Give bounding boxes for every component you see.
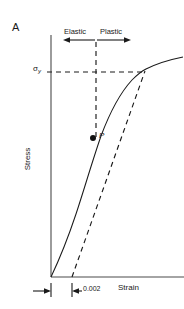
offset-dimension-arrow-head-icon: [72, 288, 79, 294]
yield-stress-label: σy: [33, 65, 41, 74]
point-p-marker: [90, 135, 96, 141]
x-axis-label: Strain: [118, 284, 139, 292]
plastic-region-label: Plastic: [100, 28, 122, 36]
offset-unload-line: [72, 71, 145, 277]
y-axis-label: Stress: [24, 123, 32, 195]
plastic-arrow-head-icon: [124, 37, 131, 43]
sigma-subscript: y: [38, 68, 41, 74]
origin-dimension-arrow-head-icon: [44, 288, 51, 294]
offset-strain-label: 0.002: [83, 285, 101, 292]
elastic-arrow-head-icon: [63, 37, 70, 43]
stress-strain-figure: A Elastic Plastic σy: [0, 0, 184, 309]
elastic-region-label: Elastic: [64, 28, 86, 36]
point-p-label: P: [99, 132, 104, 140]
stress-strain-curve: [51, 57, 183, 277]
